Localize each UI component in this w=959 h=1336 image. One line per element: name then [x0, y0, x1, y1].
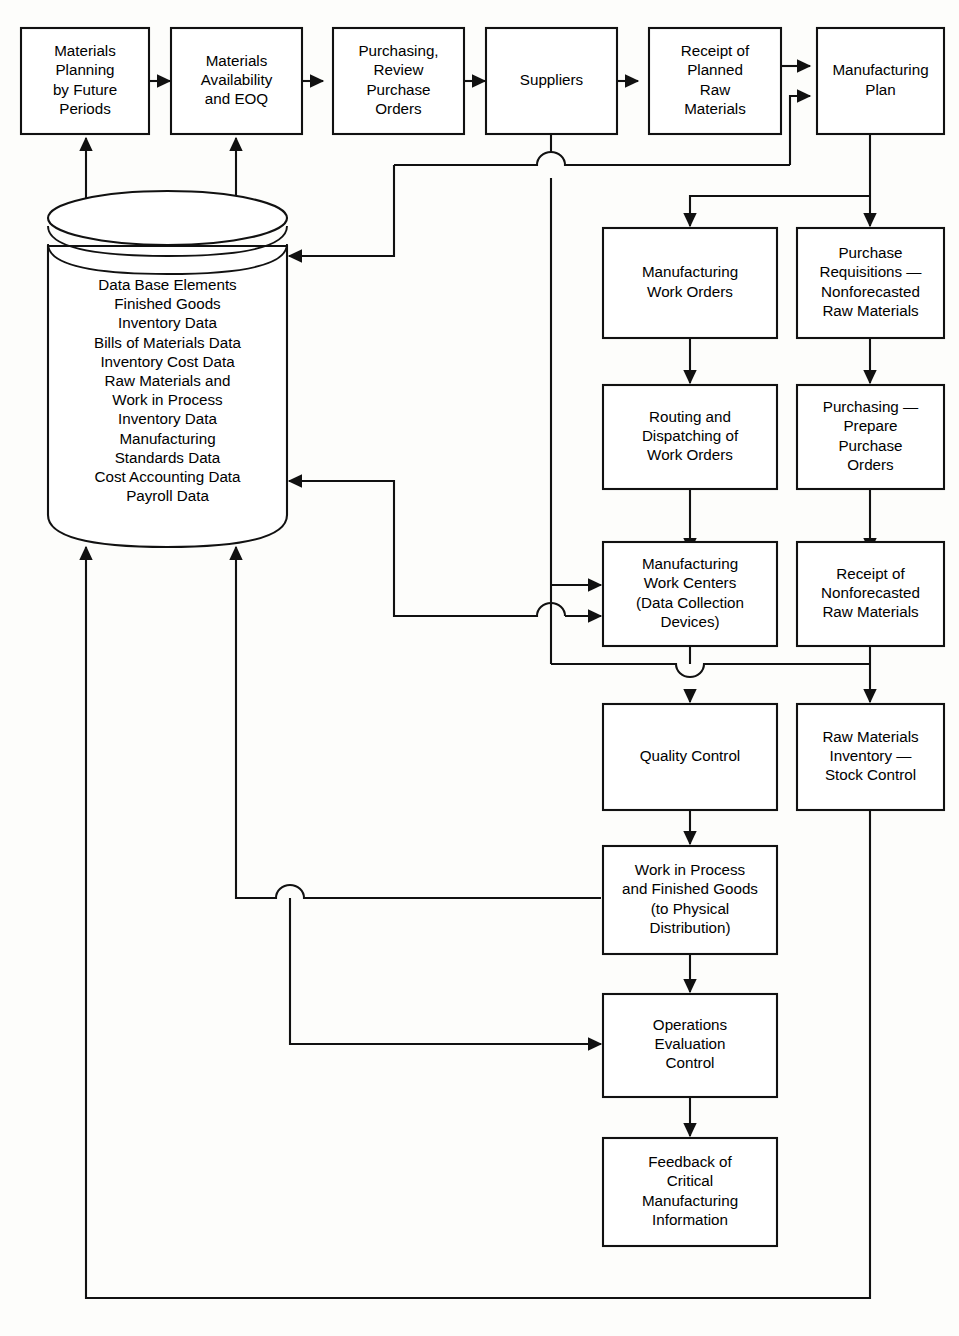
node-text: Quality Control [640, 747, 740, 764]
flowchart-canvas: Data Base ElementsFinished GoodsInventor… [0, 0, 959, 1336]
node-text: Routing andDispatching ofWork Orders [642, 408, 739, 463]
database-cylinder-top [48, 191, 287, 245]
node-purchase-requisitions[interactable]: PurchaseRequisitions —NonforecastedRaw M… [797, 228, 944, 338]
edge-workcenters-cross-bus [551, 664, 870, 677]
node-receipt-nonforecasted[interactable]: Receipt ofNonforecastedRaw Materials [797, 542, 944, 646]
node-manufacturing-work-centers[interactable]: ManufacturingWork Centers(Data Collectio… [603, 542, 777, 646]
node-materials-availability[interactable]: MaterialsAvailabilityand EOQ [171, 28, 302, 134]
edge-mfgplan-feed-left-hop [394, 152, 790, 165]
edge-db-to-workcenters-lower [289, 481, 565, 616]
edge-mfgplan-branch-left [690, 196, 870, 226]
node-manufacturing-plan[interactable]: ManufacturingPlan [817, 28, 944, 134]
node-purchasing-review[interactable]: Purchasing,ReviewPurchaseOrders [333, 28, 464, 134]
edge-into-db-upper [289, 165, 394, 256]
node-materials-planning[interactable]: MaterialsPlanningby FuturePeriods [21, 28, 149, 134]
edge-db-to-operations [290, 898, 601, 1044]
edge-receipt-bottom-to-mfgplan [790, 96, 810, 165]
node-purchasing-prepare[interactable]: Purchasing —PreparePurchaseOrders [797, 385, 944, 489]
node-receipt-planned-raw[interactable]: Receipt ofPlannedRawMaterials [649, 28, 781, 134]
node-quality-control[interactable]: Quality Control [603, 704, 777, 810]
node-suppliers[interactable]: Suppliers [486, 28, 617, 134]
edge-wip-to-db-return [236, 547, 601, 898]
database-node[interactable]: Data Base ElementsFinished GoodsInventor… [48, 191, 287, 547]
node-text: MaterialsAvailabilityand EOQ [201, 52, 273, 107]
node-work-in-process[interactable]: Work in Processand Finished Goods(to Phy… [603, 846, 777, 954]
node-text: Raw MaterialsInventory —Stock Control [822, 728, 919, 783]
flowchart-svg: Data Base ElementsFinished GoodsInventor… [0, 0, 959, 1336]
node-feedback-critical[interactable]: Feedback ofCriticalManufacturingInformat… [603, 1138, 777, 1246]
node-text: Suppliers [520, 71, 584, 88]
node-manufacturing-work-orders[interactable]: ManufacturingWork Orders [603, 228, 777, 338]
node-operations-evaluation[interactable]: OperationsEvaluationControl [603, 994, 777, 1097]
node-raw-materials-inventory[interactable]: Raw MaterialsInventory —Stock Control [797, 704, 944, 810]
node-routing-dispatching[interactable]: Routing andDispatching ofWork Orders [603, 385, 777, 489]
